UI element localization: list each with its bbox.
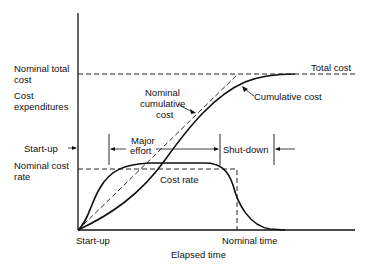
label-nominal-cumulative-1: Nominal <box>145 87 180 98</box>
nominal-cost-rate-line <box>78 169 237 230</box>
label-total-cost: Total cost <box>311 62 351 73</box>
label-nominal-cost-rate-2: rate <box>14 171 30 182</box>
label-elapsed-time: Elapsed time <box>171 249 226 260</box>
label-nominal-cumulative-2: cumulative <box>140 98 185 109</box>
label-cost-expenditures-1: Cost <box>14 90 34 101</box>
label-nominal-total-cost-1: Nominal total <box>14 63 69 74</box>
label-cost-rate: Cost rate <box>160 174 199 185</box>
label-nominal-total-cost-2: cost <box>14 74 31 85</box>
label-cumulative-cost: Cumulative cost <box>254 91 322 102</box>
label-cost-expenditures-2: expenditures <box>14 101 68 112</box>
label-major-effort-2: effort <box>130 145 151 156</box>
label-nominal-cost-rate-1: Nominal cost <box>14 160 69 171</box>
shut-down-arrowhead <box>275 147 280 151</box>
start-up-arrow-head <box>72 146 77 150</box>
label-shut-down: Shut-down <box>223 144 268 155</box>
major-effort-right-arrowhead <box>214 147 219 151</box>
label-nominal-cumulative-3: cost <box>156 109 173 120</box>
diagram-canvas <box>0 0 368 268</box>
label-start-up-y: Start-up <box>24 143 58 154</box>
nominal-cumulative-leader-arrowhead <box>190 109 196 114</box>
label-start-up-x: Start-up <box>76 235 110 246</box>
major-effort-left-arrowhead <box>110 147 115 151</box>
label-nominal-time: Nominal time <box>222 235 277 246</box>
